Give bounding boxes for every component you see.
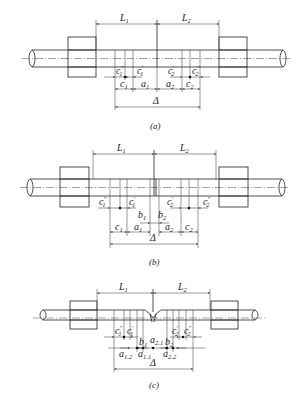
label-c2-double-prime: c″2 xyxy=(192,64,199,77)
label-c2-double-prime: c″2 xyxy=(203,195,210,208)
label-c2-prime: c′2 xyxy=(168,64,175,77)
shaft xyxy=(22,50,290,67)
label-L1: L1 xyxy=(119,12,129,24)
shaft xyxy=(20,179,290,196)
label-delta: Δ xyxy=(149,232,156,243)
label-c2-prime: c′2 xyxy=(167,195,174,208)
label-L2: L2 xyxy=(181,12,192,24)
label-b1: b1 xyxy=(139,336,147,348)
label-c1-prime: c′1 xyxy=(127,324,133,337)
label-c1-prime: c′1 xyxy=(129,195,135,208)
panel-caption-b: (b) xyxy=(149,257,160,267)
label-a12: a1.2 xyxy=(119,348,133,360)
label-a22: a2.2 xyxy=(163,348,177,360)
label-c2: c2 xyxy=(185,221,193,233)
right-clamp xyxy=(219,37,247,77)
panel-caption-c: (c) xyxy=(149,380,159,390)
left-clamp xyxy=(60,167,89,207)
label-L1: L1 xyxy=(118,281,128,293)
label-delta: Δ xyxy=(149,357,156,368)
left-clamp xyxy=(68,37,96,77)
label-a1: a1 xyxy=(141,78,149,90)
panel-a: L1 L2 c″1 c′1 c′2 c″2 c1 a1 a2 c2 Δ (a) xyxy=(22,12,290,131)
panel-b: L1 L2 c″1 c′1 c′2 c″2 b1 b2 c1 a1 a2 c2 … xyxy=(20,142,290,267)
label-L2: L2 xyxy=(179,142,190,154)
left-clamp xyxy=(70,301,97,329)
label-c1-double-prime: c″1 xyxy=(115,324,122,337)
label-c1-prime: c′1 xyxy=(137,64,143,77)
label-a2: a2 xyxy=(165,221,174,233)
label-L2: L2 xyxy=(177,281,188,293)
label-a21: a2.1 xyxy=(150,334,163,346)
label-b1: b1 xyxy=(138,209,146,221)
label-a2: a2 xyxy=(166,78,175,90)
right-clamp xyxy=(211,301,238,329)
label-b2: b2 xyxy=(158,209,167,221)
weld-shortening-diagram: L1 L2 c″1 c′1 c′2 c″2 c1 a1 a2 c2 Δ (a) xyxy=(0,0,308,409)
label-delta: Δ xyxy=(152,95,159,106)
panel-caption-a: (a) xyxy=(150,121,161,131)
label-c1: c1 xyxy=(120,78,128,90)
label-c1: c1 xyxy=(115,221,123,233)
right-clamp xyxy=(219,167,248,207)
label-b2: b2 xyxy=(165,336,174,348)
panel-c: L1 L2 c″1 c′1 c′2 c″2 b1 a2.1 b2 a1.2 a1… xyxy=(33,281,265,390)
label-c2-prime: c′2 xyxy=(172,324,179,337)
label-c2: c2 xyxy=(186,78,194,90)
label-L1: L1 xyxy=(116,142,126,154)
label-c1-double-prime: c″1 xyxy=(116,64,123,77)
label-c2-double-prime: c″2 xyxy=(184,324,191,337)
label-c1-double-prime: c″1 xyxy=(99,195,106,208)
